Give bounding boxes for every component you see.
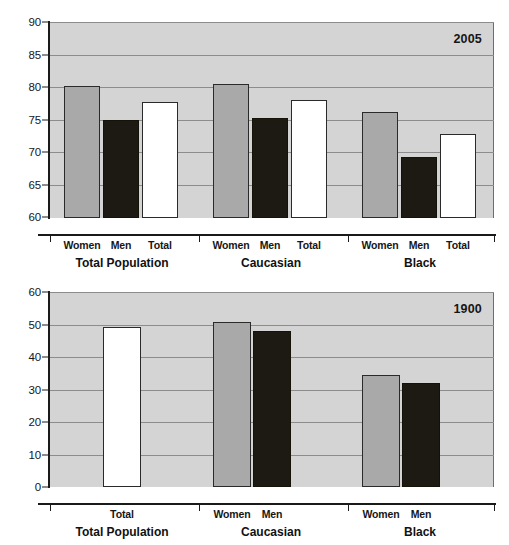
ytick-label-0: 0 [35,481,50,493]
xlabel-2005-black-women: Women [361,239,398,251]
ytick-label-60: 60 [29,286,50,298]
gridline-85 [50,55,494,56]
ytick-label-85: 85 [29,49,50,61]
ytick-label-90: 90 [29,16,50,28]
ytick-label-20: 20 [29,416,50,428]
group-separator [494,503,495,511]
x-axis-2005 [38,234,496,236]
bar-2005-total-population-men [103,120,139,218]
xlabel-2005-black-men: Men [409,239,430,251]
group-separator [348,234,349,242]
xlabel-1900-total-population-total: Total [110,508,134,520]
bar-1900-caucasian-women [213,322,251,487]
gridline-50 [50,325,494,326]
bar-1900-black-men [402,383,440,487]
group-separator [50,234,51,242]
bar-2005-black-total [440,134,476,218]
group-label-1900-black: Black [404,525,436,539]
xlabel-1900-caucasian-women: Women [213,508,250,520]
plot-area-1900: 60 50 40 30 20 10 0 1900 [50,292,494,487]
gridline-80 [50,87,494,88]
bar-2005-total-population-women [64,86,100,218]
group-separator [199,234,200,242]
group-label-2005-caucasian: Caucasian [241,256,301,270]
chart-panel-2005: 90 85 80 75 70 65 60 2005 [0,0,509,272]
bar-2005-caucasian-total [291,100,327,218]
group-label-2005-total-population: Total Population [75,256,168,270]
gridline-90 [50,22,494,23]
xlabel-2005-total-population-total: Total [148,239,172,251]
xlabel-2005-caucasian-total: Total [297,239,321,251]
xlabel-2005-total-population-women: Women [63,239,100,251]
year-label-2005: 2005 [453,32,482,46]
bar-2005-caucasian-men [252,118,288,218]
bar-2005-total-population-total [142,102,178,218]
group-label-1900-total-population: Total Population [75,525,168,539]
chart-panel-1900: 60 50 40 30 20 10 0 1900 Total Women [0,272,509,545]
bar-2005-black-men [401,157,437,218]
bar-1900-total-population-total [103,327,141,487]
group-separator [348,503,349,511]
ytick-label-60: 60 [29,211,50,223]
group-separator [494,234,495,242]
xlabel-1900-caucasian-men: Men [262,508,283,520]
gridline-60 [50,292,494,293]
ytick-label-80: 80 [29,81,50,93]
year-label-1900: 1900 [453,302,482,316]
ytick-label-10: 10 [29,449,50,461]
xlabel-2005-total-population-men: Men [111,239,132,251]
group-separator [50,503,51,511]
x-axis-1900 [38,503,496,505]
xlabel-2005-caucasian-women: Women [212,239,249,251]
bar-1900-black-women [362,375,400,487]
ytick-label-40: 40 [29,351,50,363]
xlabel-2005-caucasian-men: Men [260,239,281,251]
ytick-label-70: 70 [29,146,50,158]
group-label-1900-caucasian: Caucasian [241,525,301,539]
bar-2005-black-women [362,112,398,218]
xlabel-1900-black-men: Men [411,508,432,520]
bar-1900-caucasian-men [253,331,291,487]
bar-2005-caucasian-women [213,84,249,218]
ytick-label-65: 65 [29,179,50,191]
xlabel-1900-black-women: Women [362,508,399,520]
ytick-label-30: 30 [29,384,50,396]
xlabel-2005-black-total: Total [446,239,470,251]
group-separator [199,503,200,511]
group-label-2005-black: Black [404,256,436,270]
ytick-label-50: 50 [29,319,50,331]
ytick-label-75: 75 [29,114,50,126]
plot-area-2005: 90 85 80 75 70 65 60 2005 [50,22,494,218]
